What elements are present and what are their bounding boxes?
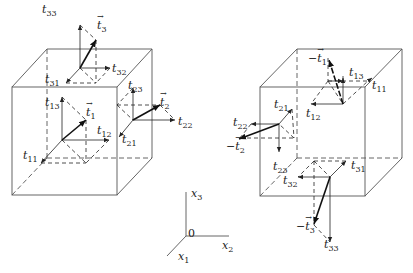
left-cube-label-t3: t3 bbox=[97, 20, 107, 34]
left-cube-front-face bbox=[12, 87, 117, 195]
left-cube-label-t1: t1 bbox=[86, 107, 96, 121]
stress-diagram bbox=[0, 0, 413, 273]
right-cube-label-t21: t21 bbox=[274, 99, 289, 113]
right-cube-label-t33: t33 bbox=[324, 239, 339, 253]
left-cube-label-t32: t32 bbox=[112, 63, 127, 77]
right-cube-label-t11: t11 bbox=[372, 80, 387, 94]
left-cube-label-t31: t31 bbox=[45, 74, 60, 88]
left-cube-label-t22: t22 bbox=[178, 116, 193, 130]
axes-label-x2: x2 bbox=[222, 240, 233, 254]
right-cube-label-t12: t12 bbox=[306, 108, 321, 122]
axes-label-origin: 0 bbox=[188, 228, 195, 239]
left-cube-label-t21: t21 bbox=[122, 134, 137, 148]
left-cube-label-t2: t2 bbox=[160, 97, 170, 111]
right-cube-label-t23: t23 bbox=[273, 161, 288, 175]
axes-label-x1: x1 bbox=[178, 251, 189, 265]
axes-label-x3: x3 bbox=[191, 188, 202, 202]
left-cube-label-t11: t11 bbox=[23, 150, 38, 164]
right-cube-label-neg-t1: −t1 bbox=[308, 53, 327, 67]
left-cube-label-t13: t13 bbox=[45, 97, 60, 111]
right-cube-label-neg-t3: −t3 bbox=[296, 221, 315, 235]
right-cube-label-t22: t22 bbox=[233, 117, 248, 131]
left-cube-label-t12: t12 bbox=[97, 125, 112, 139]
right-cube-label-neg-t2: −t2 bbox=[226, 141, 245, 155]
right-cube-label-t32: t32 bbox=[283, 175, 298, 189]
right-cube-label-t31: t31 bbox=[351, 160, 366, 174]
left-cube-label-t23: t23 bbox=[128, 80, 143, 94]
right-cube-label-t13: t13 bbox=[349, 67, 364, 81]
left-cube-label-t33: t33 bbox=[42, 4, 57, 18]
